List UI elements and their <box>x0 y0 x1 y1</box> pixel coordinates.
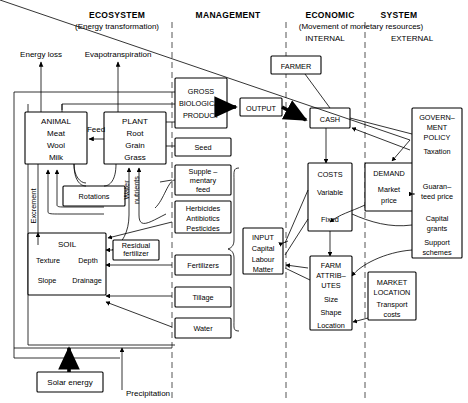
gov-line2: MENT <box>427 123 448 132</box>
link-cash-gov <box>350 118 412 134</box>
ml-transport: Transport <box>377 300 408 309</box>
soil-texture: Texture <box>36 256 60 265</box>
curve-helper <box>74 164 86 183</box>
label-nutrients: nutrients <box>132 176 141 204</box>
seed-label: Seed <box>194 143 211 152</box>
animal-line-milk: Milk <box>49 153 64 162</box>
ml-costs: costs <box>383 310 400 319</box>
soil-slope: Slope <box>38 276 57 285</box>
fertilizers-label: Fertilizers <box>187 261 219 270</box>
header-economic-subtitle: (Movement of monetary resources) <box>299 22 424 31</box>
link-fixed-input <box>285 219 308 255</box>
link-animal-gbp <box>62 104 175 112</box>
arrow-water-soil <box>106 302 172 327</box>
animal-title: ANIMAL <box>41 117 71 126</box>
costs-fixed: Fixed <box>321 215 339 224</box>
residual-line2: fertilizer <box>123 249 149 258</box>
link-fa-input <box>285 268 310 280</box>
soil-title: SOIL <box>58 240 77 249</box>
supp-line3: feed <box>196 185 210 194</box>
animal-line-wool: Wool <box>47 141 65 150</box>
soil-drainage: Drainage <box>72 276 102 285</box>
curve-plant-rotations <box>104 164 116 186</box>
label-feed: Feed <box>87 125 105 134</box>
plant-line-grass: Grass <box>124 153 145 162</box>
costs-title: COSTS <box>317 170 342 179</box>
animal-line-meat: Meat <box>47 129 66 138</box>
herb-line2: Antibiotics <box>186 214 220 223</box>
label-evapotranspiration: Evapotranspiration <box>85 50 152 59</box>
soil-depth: Depth <box>78 256 97 265</box>
gbp-line3: PRODUCT <box>183 111 220 120</box>
ml-line1: MARKET <box>377 278 408 287</box>
arrow-gov-demand <box>392 140 410 161</box>
curve-grants-costs <box>352 214 412 226</box>
gov-schemes: schemes <box>422 248 452 257</box>
plant-line-grain: Grain <box>125 141 145 150</box>
gbp-line1: GROSS <box>188 87 214 96</box>
demand-market: Market <box>378 185 400 194</box>
arrow-herbicides-soil <box>108 222 172 238</box>
fa-size: Size <box>324 295 338 304</box>
label-water: Water <box>122 180 131 200</box>
input-matter: Matter <box>253 265 274 274</box>
demand-title: DEMAND <box>373 169 405 178</box>
solar-energy-label: Solar energy <box>47 378 92 387</box>
curve-nutrient-in <box>139 214 166 223</box>
header-internal: INTERNAL <box>305 34 345 43</box>
plant-title: PLANT <box>122 117 148 126</box>
herb-line3: Pesticides <box>186 224 220 233</box>
water-label: Water <box>193 324 213 333</box>
gov-capital: Capital <box>426 214 449 223</box>
costs-variable: Variable <box>317 188 343 197</box>
fa-location: Location <box>317 321 345 330</box>
gov-grants: grants <box>427 224 448 233</box>
rotations-label: Rotations <box>79 192 110 201</box>
header-ecosystem: ECOSYSTEM <box>89 10 145 20</box>
input-capital: Capital <box>252 244 275 253</box>
gbp-line2: BIOLOGICAL <box>179 99 223 108</box>
fa-line3: UTES <box>321 281 341 290</box>
gov-guaran: Guaran– <box>423 182 452 191</box>
gov-teedprice: teed price <box>421 192 453 201</box>
label-precipitation: Precipitation <box>126 389 170 398</box>
farmer-label: FARMER <box>281 62 311 71</box>
output-label: OUTPUT <box>246 104 277 113</box>
fa-line1: FARM <box>321 261 341 270</box>
link-farmer-cash <box>305 74 330 108</box>
cash-label: CASH <box>320 115 340 124</box>
fa-shape: Shape <box>320 308 341 317</box>
link-variable-input <box>285 190 308 243</box>
fa-line2: ATTRIB– <box>316 271 346 280</box>
header-system: SYSTEM <box>381 10 418 20</box>
gov-line3: POLICY <box>424 133 451 142</box>
supp-line1: Supple – <box>189 167 219 176</box>
ml-line2: LOCATION <box>374 288 411 297</box>
gov-taxation: Taxation <box>423 147 450 156</box>
demand-price: price <box>381 196 397 205</box>
supp-line2: mentary <box>190 176 217 185</box>
header-management: MANAGEMENT <box>196 10 261 20</box>
gov-line1: GOVERN– <box>419 113 456 122</box>
header-economic: ECONOMIC <box>305 10 354 20</box>
plant-line-root: Root <box>127 129 145 138</box>
diagram-svg: ECOSYSTEM (Energy transformation) MANAGE… <box>0 0 468 403</box>
input-title: INPUT <box>252 233 274 242</box>
arrow-ml-farmattr <box>353 318 368 322</box>
diagram-canvas: ECOSYSTEM (Energy transformation) MANAGE… <box>0 0 468 403</box>
gov-support: Support <box>424 238 450 247</box>
label-excrement: Excrement <box>29 189 38 224</box>
curve-supp-tip <box>160 180 172 182</box>
arrow-fa-input <box>286 265 308 268</box>
curve-return-a <box>48 212 104 214</box>
header-external: EXTERNAL <box>391 34 434 43</box>
label-energy-loss: Energy loss <box>20 50 62 59</box>
herb-line1: Herbicides <box>186 204 221 213</box>
input-labour: Labour <box>252 255 275 264</box>
tillage-label: Tillage <box>192 293 213 302</box>
